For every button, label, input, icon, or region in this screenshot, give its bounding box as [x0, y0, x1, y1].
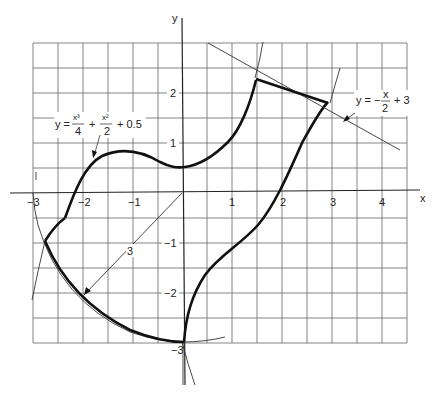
- cubic-curve: [65, 80, 256, 218]
- svg-text:+ 0.5: + 0.5: [117, 118, 142, 130]
- y-tick-labels: 2 1 −1 −2 −3: [162, 87, 184, 356]
- x-tick-label: 4: [379, 196, 385, 208]
- y-tick-label: −3: [171, 344, 184, 356]
- figure-canvas: y x −3 −2 −1 1 2 3 4 2 1 −1 −2 −3: [0, 0, 439, 400]
- x-tick-label: 1: [229, 196, 235, 208]
- svg-text:y = −: y = −: [356, 94, 380, 106]
- line-thick-segment: [256, 79, 328, 103]
- y-tick-label: 2: [170, 87, 176, 99]
- svg-text:x²: x²: [102, 113, 109, 122]
- x-tick-label: 3: [330, 196, 336, 208]
- x-axis-label: x: [420, 192, 426, 204]
- x-tick-labels: −3 −2 −1 1 2 3 4: [27, 196, 385, 208]
- radius-label: 3: [127, 245, 133, 257]
- line-equation-label: y = − x 2 + 3: [354, 88, 414, 116]
- svg-text:+: +: [89, 118, 95, 130]
- cubic-left-branch: [45, 218, 65, 241]
- svg-text:y =: y =: [55, 118, 70, 130]
- cubic-equation-label: y = x³ 4 + x² 2 + 0.5: [54, 112, 146, 138]
- svg-text:x³: x³: [73, 113, 80, 122]
- right-branch: [184, 102, 328, 342]
- svg-text:x: x: [383, 88, 389, 100]
- y-axis-label: y: [172, 12, 178, 24]
- svg-text:4: 4: [75, 125, 81, 137]
- cubic-pointer-arrowhead: [92, 150, 97, 158]
- svg-text:+ 3: + 3: [394, 94, 410, 106]
- svg-text:2: 2: [104, 125, 110, 137]
- y-tick-label: −1: [164, 237, 177, 249]
- y-tick-label: 1: [170, 137, 176, 149]
- x-tick-label: −2: [78, 196, 91, 208]
- x-axis: [10, 190, 420, 193]
- svg-text:2: 2: [382, 102, 388, 114]
- x-tick-label: −1: [128, 196, 141, 208]
- x-tick-label: 2: [280, 196, 286, 208]
- y-tick-label: −2: [164, 287, 177, 299]
